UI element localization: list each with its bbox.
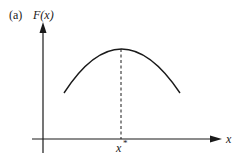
optimum-label: x: [115, 141, 122, 155]
function-curve: [64, 49, 180, 93]
y-axis-label: F(x): [32, 8, 54, 22]
maximum-diagram: (a) F(x) x x *: [0, 0, 243, 166]
panel-label: (a): [9, 8, 22, 22]
optimum-superscript: *: [123, 138, 128, 148]
y-axis-arrow-icon: [40, 22, 47, 33]
x-axis-arrow-icon: [210, 136, 222, 143]
x-axis-label: x: [225, 132, 232, 146]
